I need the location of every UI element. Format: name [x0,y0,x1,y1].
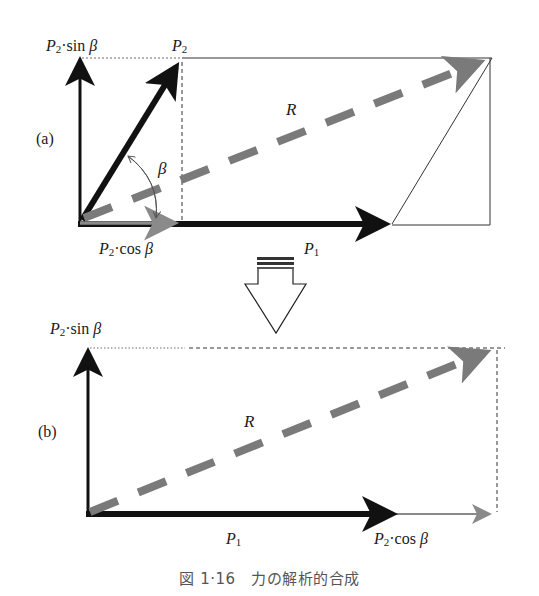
label-r-b: R [244,413,254,431]
greek: β [89,320,101,337]
function: ·cos [389,530,416,547]
label-p2-a: P2 [172,37,187,58]
greek: β [416,530,428,547]
label-r-a: R [286,101,296,119]
label-p1-b: P1 [226,530,241,551]
transform-down-arrow [245,257,306,333]
label-beta-a: β [158,160,166,178]
symbol: P [50,320,60,337]
greek: β [141,240,153,257]
figure-caption: 図 1·16 力の解析的合成 [0,567,539,588]
symbol: P [99,240,109,257]
label-p1-a: P1 [304,240,319,261]
panel-b [86,348,505,515]
panel-b-tag: (b) [38,423,57,441]
panel-a [78,58,492,225]
symbol: P [374,530,384,547]
function: ·cos [114,240,141,257]
symbol: P [172,37,182,54]
p2-arrow [82,67,176,220]
panel-a-tag: (a) [36,130,54,148]
resultant-arrow-b [90,353,484,512]
resultant-arrow [84,63,478,218]
parallelogram-side [392,58,492,224]
symbol: P [226,530,236,547]
function: ·sin [65,320,89,337]
label-p2-cos-b: P2·cos β [374,530,428,551]
subscript: 1 [314,246,320,258]
symbol: P [304,240,314,257]
label-p2-cos-a: P2·cos β [99,240,153,261]
label-p2-sin-a: P2·sin β [46,37,97,58]
subscript: 2 [182,43,188,55]
label-p2-sin-b: P2·sin β [50,320,101,341]
symbol: P [46,37,56,54]
greek: β [85,37,97,54]
function: ·sin [61,37,85,54]
subscript: 1 [236,536,242,548]
force-composition-diagram [0,0,539,596]
